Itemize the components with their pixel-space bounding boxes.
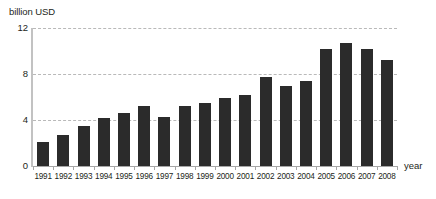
x-tick — [377, 166, 378, 170]
x-tick-label: 1994 — [94, 172, 114, 181]
x-tick — [276, 166, 277, 170]
x-tick-label: 2006 — [336, 172, 356, 181]
bar — [239, 95, 251, 166]
bar — [98, 118, 110, 166]
bar — [280, 86, 292, 167]
y-tick-label: 4 — [0, 114, 28, 125]
x-tick-label: 1998 — [175, 172, 195, 181]
y-tick-label: 0 — [0, 160, 28, 171]
x-tick-label: 1991 — [33, 172, 53, 181]
x-tick-label: 2001 — [235, 172, 255, 181]
x-tick — [215, 166, 216, 170]
x-tick — [94, 166, 95, 170]
bar — [199, 103, 211, 166]
bar — [320, 49, 332, 166]
x-tick — [154, 166, 155, 170]
x-tick-label: 2007 — [357, 172, 377, 181]
y-tick-label: 8 — [0, 68, 28, 79]
bar — [118, 113, 130, 166]
bar — [340, 43, 352, 166]
x-tick — [296, 166, 297, 170]
x-tick — [336, 166, 337, 170]
x-tick — [73, 166, 74, 170]
bar — [57, 135, 69, 166]
bar — [78, 126, 90, 166]
bar — [361, 49, 373, 166]
bar-chart: billion USD year 04812 19911992199319941… — [0, 0, 436, 199]
x-tick-label: 1993 — [73, 172, 93, 181]
y-tick-label: 12 — [0, 22, 28, 33]
x-tick-label: 1996 — [134, 172, 154, 181]
x-tick — [175, 166, 176, 170]
x-tick — [33, 166, 34, 170]
x-tick-label: 2002 — [255, 172, 275, 181]
x-tick — [397, 166, 398, 170]
bar — [158, 117, 170, 166]
x-tick-label: 1997 — [154, 172, 174, 181]
x-tick-label: 1999 — [195, 172, 215, 181]
x-tick-label: 1995 — [114, 172, 134, 181]
bar — [138, 106, 150, 166]
bar-series — [33, 28, 397, 166]
x-tick-label: 2008 — [377, 172, 397, 181]
x-tick-label: 2003 — [276, 172, 296, 181]
x-tick-label: 2000 — [215, 172, 235, 181]
x-axis-tick-labels: 1991199219931994199519961997199819992000… — [33, 172, 397, 186]
x-tick — [53, 166, 54, 170]
plot-area — [33, 28, 397, 166]
bar — [37, 142, 49, 166]
x-axis-ticks — [33, 166, 397, 171]
x-tick — [195, 166, 196, 170]
bar — [179, 106, 191, 166]
x-tick-label: 1992 — [53, 172, 73, 181]
x-axis-title: year — [404, 160, 422, 171]
x-tick-label: 2005 — [316, 172, 336, 181]
x-tick — [114, 166, 115, 170]
x-tick-label: 2004 — [296, 172, 316, 181]
x-tick — [235, 166, 236, 170]
bar — [219, 98, 231, 166]
x-tick — [255, 166, 256, 170]
bar — [260, 77, 272, 166]
x-tick — [134, 166, 135, 170]
y-axis-title: billion USD — [9, 6, 55, 17]
bar — [381, 60, 393, 166]
x-tick — [316, 166, 317, 170]
x-tick — [357, 166, 358, 170]
bar — [300, 81, 312, 166]
